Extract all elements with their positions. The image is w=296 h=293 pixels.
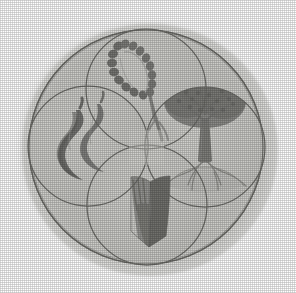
emblem-illustration [0,0,296,293]
open-book-icon [131,176,170,247]
center-node [129,130,164,165]
emblem-canvas: Circular emblem divided into four overla… [0,0,296,293]
